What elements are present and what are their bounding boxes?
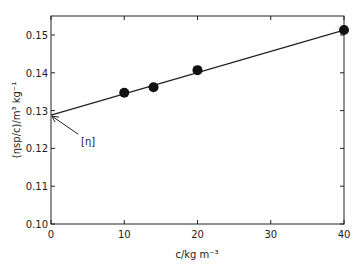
y-tick-label: 0.12 bbox=[26, 143, 48, 154]
y-tick-label: 0.11 bbox=[26, 181, 48, 192]
y-axis-label: (ηsp/c)/m³ kg⁻¹ bbox=[11, 82, 22, 158]
y-tick-label: 0.15 bbox=[26, 30, 48, 41]
x-tick-label: 30 bbox=[264, 229, 277, 240]
annotation-arrow bbox=[52, 116, 78, 134]
intrinsic-viscosity-chart: 010203040 0.100.110.120.130.140.15 [η] c… bbox=[0, 0, 360, 264]
y-tick-label: 0.10 bbox=[26, 219, 48, 230]
y-tick-label: 0.14 bbox=[26, 68, 48, 79]
plot-border bbox=[51, 16, 344, 224]
data-point bbox=[119, 88, 129, 98]
x-tick-label: 20 bbox=[191, 229, 204, 240]
x-tick-label: 10 bbox=[118, 229, 131, 240]
y-tick-label: 0.13 bbox=[26, 106, 48, 117]
intrinsic-viscosity-label: [η] bbox=[81, 136, 95, 147]
data-series bbox=[51, 25, 349, 115]
x-axis-label: c/kg m⁻³ bbox=[175, 249, 218, 260]
data-point bbox=[193, 65, 203, 75]
y-axis-ticks: 0.100.110.120.130.140.15 bbox=[26, 30, 344, 230]
annotations: [η] bbox=[52, 116, 95, 147]
plot-frame bbox=[51, 16, 344, 224]
x-tick-label: 0 bbox=[48, 229, 54, 240]
data-point bbox=[339, 25, 349, 35]
data-point bbox=[149, 82, 159, 92]
x-tick-label: 40 bbox=[338, 229, 351, 240]
x-axis-ticks: 010203040 bbox=[48, 16, 351, 240]
